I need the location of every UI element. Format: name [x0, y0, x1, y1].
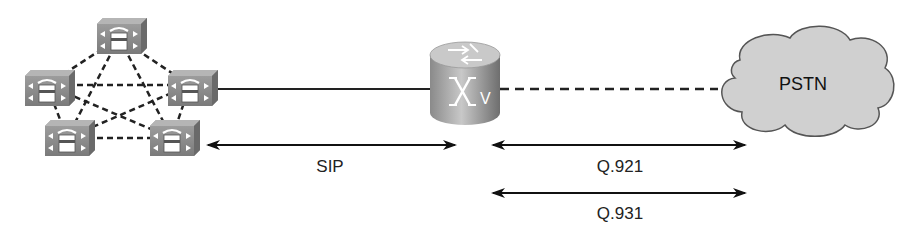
phone-bottom-left-icon — [45, 120, 95, 156]
phone-right-icon — [168, 70, 218, 106]
sip-label: SIP — [300, 157, 360, 177]
svg-text:V: V — [480, 90, 491, 107]
phone-bottom-right-icon — [150, 120, 200, 156]
q921-label: Q.921 — [585, 157, 655, 177]
phone-left-icon — [25, 70, 75, 106]
phone-top-icon — [97, 18, 147, 54]
q931-label: Q.931 — [585, 204, 655, 224]
pstn-label: PSTN — [779, 74, 827, 95]
network-diagram: V — [0, 0, 915, 231]
voice-router-icon: V — [430, 42, 500, 125]
